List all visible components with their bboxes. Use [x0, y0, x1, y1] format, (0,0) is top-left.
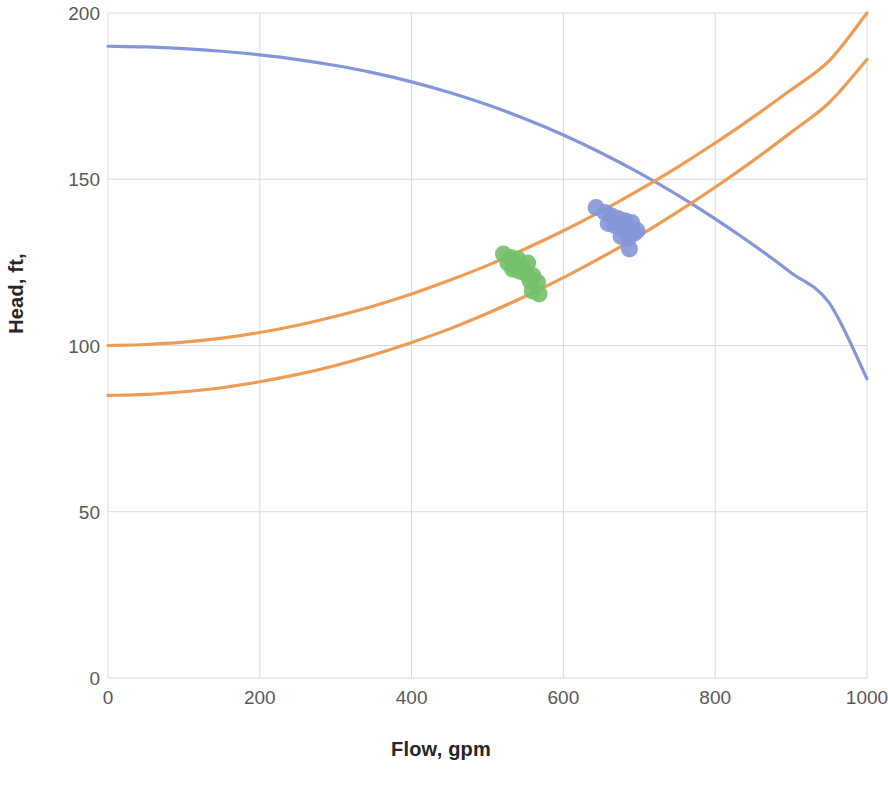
x-axis-title: Flow, gpm [0, 738, 882, 761]
x-tick-label: 0 [103, 688, 114, 707]
y-axis-title: Head, ft, [5, 214, 28, 374]
x-tick-label: 400 [396, 688, 428, 707]
x-tick-label: 1000 [846, 688, 888, 707]
x-tick-label: 200 [244, 688, 276, 707]
x-tick-label: 600 [548, 688, 580, 707]
x-tick-label: 800 [699, 688, 731, 707]
